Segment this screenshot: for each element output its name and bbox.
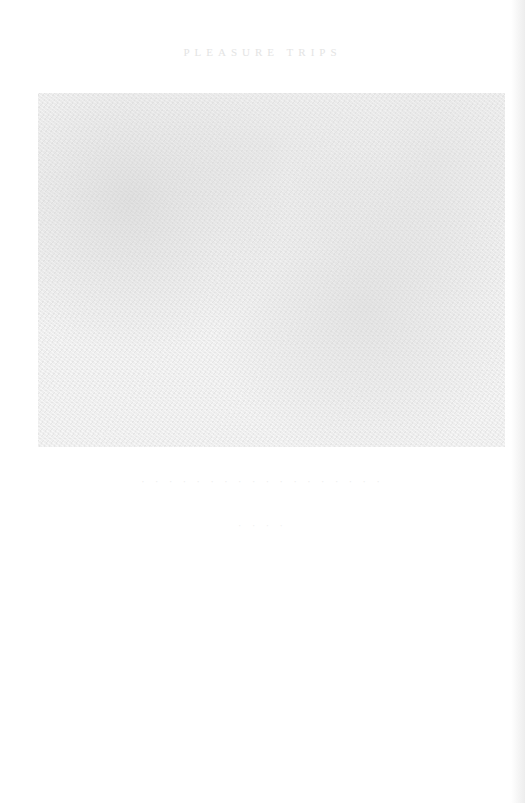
- plate-caption: · · · · · · · · · · · · · · · · · ·: [0, 476, 525, 487]
- running-head: PLEASURE TRIPS: [0, 46, 525, 58]
- page-edge-shadow: [511, 0, 525, 803]
- plate-caption-subline: · · · ·: [0, 520, 525, 531]
- photographic-plate: [38, 93, 505, 447]
